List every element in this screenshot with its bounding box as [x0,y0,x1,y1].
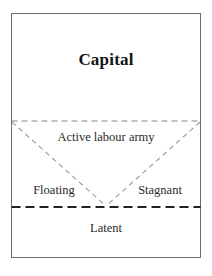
region-label-stagnant: Stagnant [122,183,198,197]
region-label-floating: Floating [16,183,92,197]
region-label-active-labour-army: Active labour army [41,130,171,144]
region-label-capital: Capital [11,50,201,69]
region-label-latent: Latent [11,221,201,235]
diagram-canvas: Capital Active labour army Floating Stag… [0,0,212,276]
